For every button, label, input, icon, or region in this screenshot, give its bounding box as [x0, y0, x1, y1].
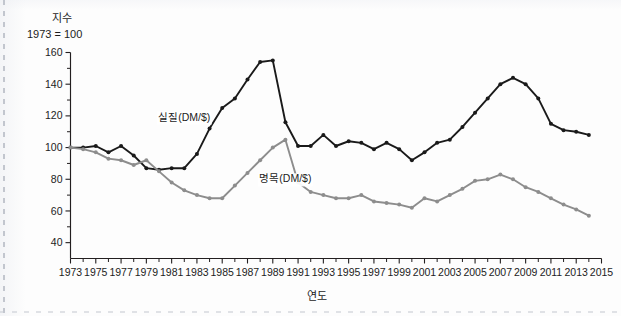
data-point-marker	[233, 184, 237, 188]
data-point-marker	[258, 60, 262, 64]
data-point-marker	[372, 199, 376, 203]
y-tick-label: 100	[45, 141, 63, 153]
line-chart: 406080100120140160 197319751977197919811…	[0, 0, 621, 316]
data-point-marker	[258, 158, 262, 162]
data-point-marker	[157, 169, 161, 173]
data-point-marker	[587, 214, 591, 218]
x-tick-label: 1987	[236, 266, 260, 278]
x-tick-label: 1985	[211, 266, 235, 278]
data-point-marker	[347, 139, 351, 143]
data-point-marker	[182, 188, 186, 192]
y-axis-unit-caption-line2: 1973 = 100	[27, 28, 82, 40]
data-point-marker	[106, 157, 110, 161]
y-tick-label: 140	[45, 78, 63, 90]
x-tick-label: 1999	[388, 266, 412, 278]
x-axis-tick-labels: 1973197519771979198119831985198719891991…	[59, 266, 614, 278]
series-annotations: 실질(DM/$)명목(DM/$)	[157, 111, 313, 187]
data-point-marker	[536, 190, 540, 194]
data-point-marker	[460, 125, 464, 129]
data-point-marker	[435, 199, 439, 203]
x-tick-label: 1975	[84, 266, 108, 278]
data-point-marker	[170, 166, 174, 170]
data-point-marker	[220, 196, 224, 200]
y-tick-label: 80	[51, 173, 63, 185]
y-axis-tick-labels: 406080100120140160	[45, 46, 63, 248]
data-point-marker	[473, 179, 477, 183]
series-line-nominal	[71, 140, 589, 216]
x-tick-label: 2001	[413, 266, 437, 278]
data-point-marker	[448, 193, 452, 197]
data-point-marker	[460, 187, 464, 191]
data-point-marker	[144, 158, 148, 162]
data-point-marker	[246, 77, 250, 81]
y-tick-label: 120	[45, 109, 63, 121]
data-point-marker	[119, 144, 123, 148]
data-point-marker	[385, 201, 389, 205]
data-point-marker	[549, 196, 553, 200]
x-tick-label: 1983	[185, 266, 209, 278]
x-tick-label: 2005	[463, 266, 487, 278]
data-point-marker	[170, 180, 174, 184]
x-tick-label: 1981	[160, 266, 184, 278]
data-point-marker	[195, 193, 199, 197]
data-point-marker	[511, 177, 515, 181]
data-point-marker	[321, 193, 325, 197]
data-point-marker	[423, 150, 427, 154]
x-tick-label: 1977	[109, 266, 133, 278]
data-point-marker	[132, 154, 136, 158]
data-point-marker	[448, 138, 452, 142]
x-tick-label: 2007	[489, 266, 513, 278]
data-point-marker	[397, 147, 401, 151]
data-point-marker	[423, 196, 427, 200]
data-point-marker	[283, 120, 287, 124]
data-point-marker	[283, 138, 287, 142]
axes	[66, 53, 602, 264]
data-point-marker	[309, 144, 313, 148]
data-point-marker	[549, 122, 553, 126]
y-tick-label: 40	[51, 236, 63, 248]
x-tick-label: 1991	[286, 266, 310, 278]
x-tick-label: 1989	[261, 266, 285, 278]
y-tick-label: 60	[51, 205, 63, 217]
data-point-marker	[536, 96, 540, 100]
y-tick-label: 160	[45, 46, 63, 58]
series-label-real: 실질(DM/$)	[158, 111, 210, 123]
data-point-marker	[587, 133, 591, 137]
data-point-marker	[359, 193, 363, 197]
data-point-marker	[94, 150, 98, 154]
data-point-marker	[498, 173, 502, 177]
x-tick-label: 1979	[135, 266, 159, 278]
y-axis-unit-caption-line1: 지수	[52, 12, 72, 24]
data-point-marker	[69, 146, 73, 150]
x-tick-label: 2009	[514, 266, 538, 278]
data-point-marker	[208, 196, 212, 200]
data-point-marker	[473, 111, 477, 115]
data-point-marker	[309, 190, 313, 194]
data-point-marker	[562, 128, 566, 132]
x-tick-label: 1993	[312, 266, 336, 278]
data-point-marker	[498, 82, 502, 86]
data-point-marker	[397, 203, 401, 207]
x-tick-label: 1995	[337, 266, 361, 278]
data-point-marker	[524, 185, 528, 189]
x-tick-label: 2003	[438, 266, 462, 278]
data-point-marker	[94, 144, 98, 148]
data-point-marker	[524, 82, 528, 86]
series-label-nominal: 명목(DM/$)	[259, 172, 311, 184]
data-point-marker	[334, 144, 338, 148]
x-axis-title: 연도	[307, 290, 327, 302]
data-point-marker	[334, 196, 338, 200]
data-point-marker	[321, 133, 325, 137]
data-point-marker	[132, 163, 136, 167]
data-point-marker	[574, 130, 578, 134]
data-point-marker	[296, 144, 300, 148]
data-point-marker	[486, 96, 490, 100]
data-point-marker	[410, 158, 414, 162]
data-point-marker	[347, 196, 351, 200]
data-point-marker	[144, 166, 148, 170]
data-point-marker	[220, 106, 224, 110]
x-tick-label: 1997	[362, 266, 386, 278]
x-tick-label: 2015	[590, 266, 614, 278]
data-point-marker	[182, 166, 186, 170]
series-line-real	[71, 60, 589, 169]
